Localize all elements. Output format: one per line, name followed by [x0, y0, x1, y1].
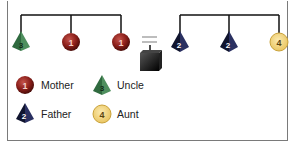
- right-balance: 2 2 4: [171, 15, 288, 52]
- mother-sphere-icon: 1: [112, 33, 130, 51]
- uncle-pyramid-icon: 3: [12, 31, 30, 51]
- legend-mother-icon: 1: [16, 76, 34, 94]
- svg-text:3: 3: [19, 41, 24, 50]
- aunt-circle-icon: 4: [270, 33, 288, 51]
- balance-diagram: 3 1 1 2: [0, 0, 297, 144]
- svg-text:2: 2: [22, 112, 27, 121]
- svg-text:1: 1: [22, 81, 27, 91]
- svg-text:2: 2: [226, 41, 231, 50]
- equals-icon: [142, 37, 157, 42]
- legend-uncle-icon: 3: [93, 75, 111, 95]
- legend-aunt-icon: 4: [93, 105, 111, 123]
- legend-uncle-label: Uncle: [117, 79, 144, 91]
- legend-mother-label: Mother: [41, 79, 74, 91]
- svg-text:4: 4: [276, 38, 281, 48]
- svg-text:1: 1: [68, 38, 73, 48]
- left-balance: 3 1 1: [12, 15, 130, 51]
- svg-text:4: 4: [99, 110, 104, 120]
- father-pyramid-icon: 2: [220, 31, 238, 52]
- svg-text:3: 3: [100, 84, 105, 93]
- legend-father-label: Father: [41, 108, 71, 120]
- legend-aunt-label: Aunt: [117, 108, 139, 120]
- legend-father-icon: 2: [16, 103, 34, 123]
- mother-sphere-icon: 1: [62, 33, 80, 51]
- svg-text:2: 2: [177, 41, 182, 50]
- father-pyramid-icon: 2: [171, 31, 189, 52]
- black-box-weight-icon: [140, 45, 162, 71]
- svg-text:1: 1: [118, 38, 123, 48]
